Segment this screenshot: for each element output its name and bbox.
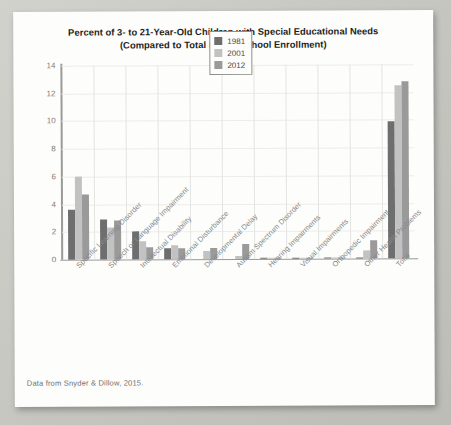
chart-legend: 198120012012	[209, 31, 252, 75]
legend-item: 1981	[214, 35, 245, 47]
y-axis-tick-label: 6	[51, 172, 55, 181]
screenshot-page: Percent of 3- to 21-Year-Old Children wi…	[0, 0, 451, 425]
y-axis-tick-label: 0	[52, 255, 56, 264]
y-axis-tick-label: 12	[47, 89, 56, 98]
y-axis-tick-label: 2	[52, 228, 56, 237]
source-caption: Data from Snyder & Dillow, 2015.	[27, 378, 144, 388]
legend-swatch	[214, 61, 222, 69]
y-axis-tick-label: 10	[47, 117, 56, 126]
legend-label: 2001	[227, 48, 245, 57]
legend-swatch	[214, 49, 222, 57]
bar-group	[61, 66, 94, 260]
y-axis-tick-label: 4	[52, 200, 56, 209]
bar	[356, 257, 363, 258]
legend-item: 2001	[214, 47, 245, 59]
legend-item: 2012	[214, 59, 245, 71]
bar	[324, 257, 331, 258]
x-axis-labels: Specific Learning DisorderSpeech or Lang…	[13, 10, 433, 12]
bar	[292, 257, 299, 258]
bar	[164, 248, 171, 259]
chart-card-inner: Percent of 3- to 21-Year-Old Children wi…	[13, 10, 435, 407]
chart-card: Percent of 3- to 21-Year-Old Children wi…	[13, 10, 435, 407]
y-axis-tick-label: 14	[46, 61, 55, 70]
legend-swatch	[214, 37, 222, 45]
legend-label: 2012	[227, 60, 245, 69]
y-axis-tick-label: 8	[51, 144, 55, 153]
legend-label: 1981	[227, 36, 245, 45]
bar	[260, 257, 267, 258]
